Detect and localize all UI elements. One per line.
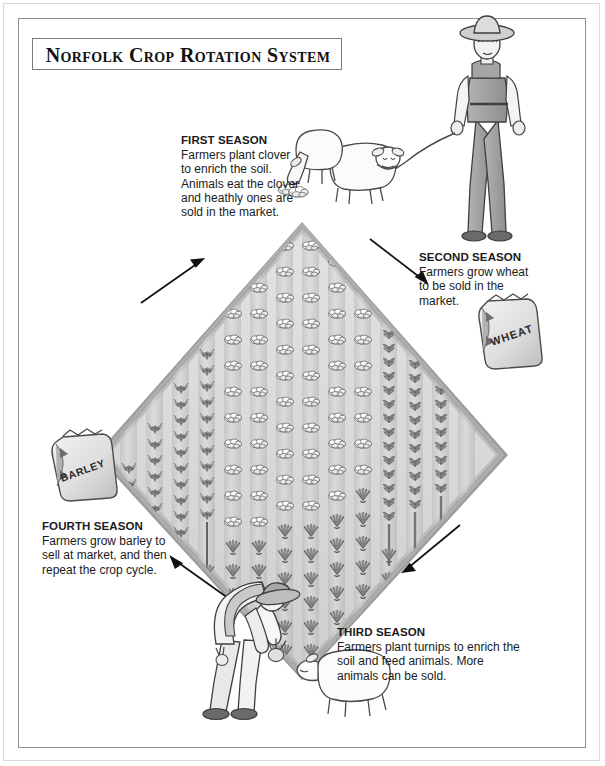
- standing-farmer: [385, 16, 525, 241]
- second-season-heading: SECOND SEASON: [419, 250, 539, 264]
- first-season-heading: FIRST SEASON: [181, 133, 303, 147]
- first-season-body: Farmers plant clover to enrich the soil.…: [181, 148, 303, 219]
- callout-fourth-season: FOURTH SEASON Farmers grow barley to sel…: [42, 519, 172, 577]
- third-season-heading: THIRD SEASON: [337, 625, 527, 639]
- callout-second-season: SECOND SEASON Farmers grow wheat to be s…: [419, 250, 539, 308]
- third-season-body: Farmers plant turnips to enrich the soil…: [337, 640, 527, 683]
- barley-sack: BARLEY: [52, 429, 117, 501]
- fourth-season-body: Farmers grow barley to sell at market, a…: [42, 534, 172, 577]
- second-season-body: Farmers grow wheat to be sold in the mar…: [419, 265, 539, 308]
- diagram-canvas: WHEAT BARLEY: [0, 0, 605, 766]
- callout-first-season: FIRST SEASON Farmers plant clover to enr…: [181, 133, 303, 219]
- fourth-season-heading: FOURTH SEASON: [42, 519, 172, 533]
- callout-third-season: THIRD SEASON Farmers plant turnips to en…: [337, 625, 527, 683]
- title-box: Norfolk Crop Rotation System: [32, 38, 342, 70]
- arrow-to-first: [141, 259, 203, 303]
- page-title: Norfolk Crop Rotation System: [33, 39, 343, 71]
